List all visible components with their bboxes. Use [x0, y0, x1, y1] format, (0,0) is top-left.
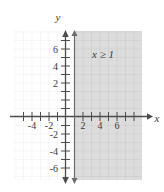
- y-tick-label: 4: [53, 61, 58, 72]
- region-inequality-label: x ≥ 1: [91, 48, 114, 60]
- graph-figure: -4 -2 2 4 6 6 4 2 -2 -4 -6 x y x ≥ 1: [0, 0, 164, 192]
- y-tick-label: 2: [53, 78, 58, 89]
- coordinate-plane-svg: -4 -2 2 4 6 6 4 2 -2 -4 -6 x y x ≥ 1: [0, 0, 164, 192]
- x-tick-label: 2: [81, 120, 86, 131]
- y-tick-label: -2: [50, 129, 58, 140]
- y-tick-label: -4: [50, 146, 58, 157]
- y-axis-label: y: [55, 11, 61, 23]
- x-tick-label: -4: [28, 120, 36, 131]
- x-axis-label: x: [154, 112, 160, 124]
- y-tick-label: -6: [50, 163, 58, 174]
- x-tick-label: 4: [98, 120, 103, 131]
- y-tick-label: 6: [53, 44, 58, 55]
- x-tick-label: 6: [115, 120, 120, 131]
